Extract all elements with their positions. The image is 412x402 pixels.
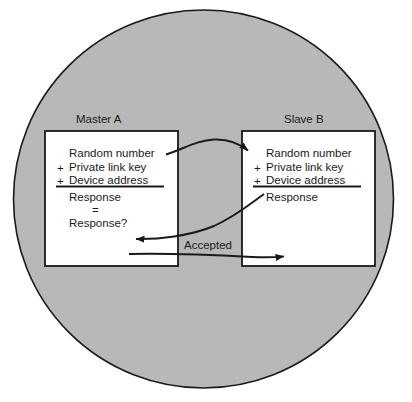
accepted-arrow-label: Accepted <box>184 240 232 252</box>
diagram-canvas: Master A + + Random number Private link … <box>0 0 412 402</box>
diagram-graphics <box>0 0 412 402</box>
master-row-2-text: Device address <box>69 175 148 187</box>
master-row-1-operator: + <box>57 162 64 174</box>
slave-row-2-text: Device address <box>266 175 345 187</box>
master-row-2-operator: + <box>57 175 64 187</box>
master-box-title: Master A <box>76 114 121 126</box>
slave-row-0-text: Random number <box>266 148 352 160</box>
slave-row-2-operator: + <box>254 175 261 187</box>
slave-box-title: Slave B <box>284 114 324 126</box>
master-result-line-2: Response? <box>69 218 127 230</box>
master-result-line-0: Response <box>69 192 121 204</box>
master-row-1-text: Private link key <box>69 162 146 174</box>
slave-row-1-operator: + <box>254 162 261 174</box>
slave-result-line-0: Response <box>266 192 318 204</box>
slave-row-1-text: Private link key <box>266 162 343 174</box>
master-row-0-text: Random number <box>69 148 155 160</box>
master-result-line-1: = <box>92 205 99 217</box>
